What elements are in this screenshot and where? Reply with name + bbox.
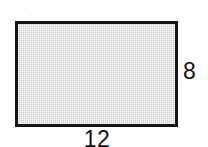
height-dimension-label: 8 (183, 60, 196, 83)
geometry-figure: 8 12 (0, 0, 208, 147)
width-dimension-label: 12 (0, 128, 208, 147)
rectangle-shape (15, 21, 178, 127)
